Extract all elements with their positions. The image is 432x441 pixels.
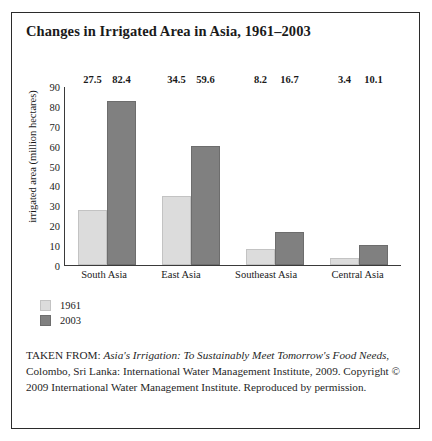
plot-area: 27.582.434.559.68.216.73.410.1 <box>64 87 401 266</box>
bars-layer: 27.582.434.559.68.216.73.410.1 <box>65 87 401 265</box>
bar-group: 27.582.4 <box>78 87 136 265</box>
legend-label-1961: 1961 <box>60 300 81 311</box>
source-citation: TAKEN FROM: Asia's Irrigation: To Sustai… <box>26 347 404 396</box>
y-axis-tick-label: 60 <box>50 141 61 152</box>
bar-column: 27.5 <box>78 87 107 265</box>
bar-value-label: 3.4 <box>338 74 351 85</box>
x-axis-tick-label: East Asia <box>161 269 200 280</box>
bar-1961[interactable]: 8.2 <box>246 249 275 265</box>
x-axis-tick-label: Central Asia <box>332 269 384 280</box>
bar-group: 34.559.6 <box>162 87 220 265</box>
bar-1961[interactable]: 34.5 <box>162 196 191 265</box>
bar-column: 3.4 <box>330 87 359 265</box>
y-axis-tick-label: 20 <box>50 221 61 232</box>
bar-column: 10.1 <box>359 87 388 265</box>
y-axis-tick-label: 80 <box>50 101 61 112</box>
y-axis-tick-label: 10 <box>50 241 61 252</box>
y-axis-tick-labels: 9080706050403020100 <box>36 71 60 266</box>
legend-swatch-2003 <box>40 315 51 326</box>
bar-1961[interactable]: 3.4 <box>330 258 359 265</box>
bar-value-label: 34.5 <box>167 74 185 85</box>
legend-swatch-1961 <box>40 300 51 311</box>
bar-value-label: 8.2 <box>254 74 267 85</box>
x-axis-tick-label: South Asia <box>81 269 127 280</box>
bar-value-label: 10.1 <box>364 74 382 85</box>
y-axis-tick-label: 50 <box>50 161 61 172</box>
bar-value-label: 82.4 <box>112 74 130 85</box>
bar-1961[interactable]: 27.5 <box>78 210 107 265</box>
bar-2003[interactable]: 59.6 <box>191 146 220 265</box>
y-axis-tick-label: 30 <box>50 201 61 212</box>
bar-2003[interactable]: 10.1 <box>359 245 388 265</box>
bar-column: 82.4 <box>107 87 136 265</box>
figure-frame: Changes in Irrigated Area in Asia, 1961–… <box>11 12 420 429</box>
bar-value-label: 27.5 <box>83 74 101 85</box>
y-axis-tick-label: 70 <box>50 121 61 132</box>
legend-label-2003: 2003 <box>60 315 81 326</box>
bar-column: 59.6 <box>191 87 220 265</box>
x-axis-tick-label: Southeast Asia <box>235 269 297 280</box>
bar-value-label: 16.7 <box>280 74 298 85</box>
bar-group: 3.410.1 <box>330 87 388 265</box>
source-title: Asia's Irrigation: To Sustainably Meet T… <box>103 349 386 361</box>
bar-value-label: 59.6 <box>196 74 214 85</box>
legend-item-2003[interactable]: 2003 <box>40 315 81 326</box>
bar-2003[interactable]: 82.4 <box>107 101 136 265</box>
legend-item-1961[interactable]: 1961 <box>40 300 81 311</box>
y-axis-tick-label: 40 <box>50 181 61 192</box>
bar-column: 16.7 <box>275 87 304 265</box>
source-prefix: TAKEN FROM: <box>26 349 103 361</box>
x-axis-tick-labels: South AsiaEast AsiaSoutheast AsiaCentral… <box>64 269 401 280</box>
chart-plot-block: irrigated area (million hectares) 908070… <box>12 71 421 286</box>
y-axis-tick-label: 90 <box>50 82 61 93</box>
bar-2003[interactable]: 16.7 <box>275 232 304 265</box>
chart-legend: 19612003 <box>40 300 81 330</box>
bar-column: 8.2 <box>246 87 275 265</box>
page-title: Changes in Irrigated Area in Asia, 1961–… <box>26 23 311 40</box>
bar-group: 8.216.7 <box>246 87 304 265</box>
y-axis-tick-label: 0 <box>55 261 60 272</box>
bar-column: 34.5 <box>162 87 191 265</box>
